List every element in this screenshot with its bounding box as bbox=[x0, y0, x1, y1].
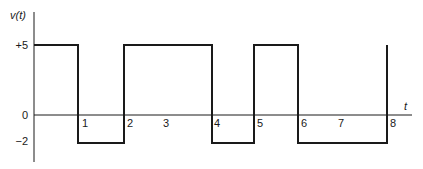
x-tick-label: 7 bbox=[338, 117, 344, 129]
x-tick-label: 6 bbox=[301, 117, 307, 129]
y-tick-label: −2 bbox=[15, 135, 28, 147]
y-tick-label: +5 bbox=[15, 39, 28, 51]
y-axis-title: v(t) bbox=[10, 9, 26, 21]
x-axis-title: t bbox=[404, 100, 408, 112]
x-tick-label: 3 bbox=[163, 117, 169, 129]
x-tick-label: 5 bbox=[257, 117, 263, 129]
y-tick-label: 0 bbox=[22, 109, 28, 121]
x-tick-label: 8 bbox=[390, 117, 396, 129]
step-waveform-chart: v(t) t +5 0 −2 1 2 3 4 5 6 7 8 bbox=[0, 0, 423, 169]
x-tick-label: 1 bbox=[82, 117, 88, 129]
x-tick-label: 4 bbox=[214, 117, 220, 129]
x-tick-label: 2 bbox=[127, 117, 133, 129]
